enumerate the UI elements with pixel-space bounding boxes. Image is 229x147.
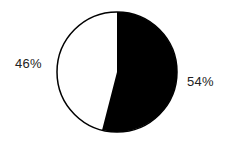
slice-label-54: 54% [187,74,214,89]
slice-label-46: 46% [15,56,42,71]
